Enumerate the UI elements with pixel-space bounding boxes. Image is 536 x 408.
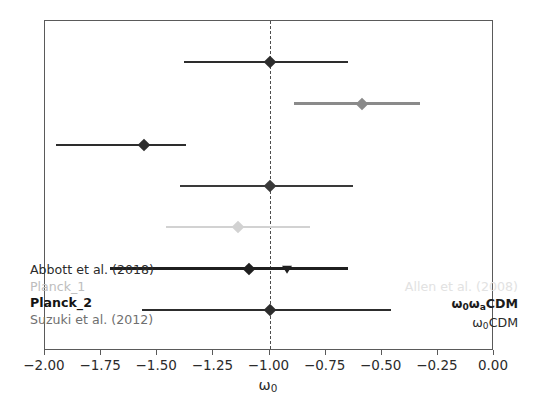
legend-dataset-item-1: Abbott et al. (2018) [30, 262, 154, 279]
x-axis-tick-label: 0.00 [478, 357, 508, 373]
legend-model-item-2: ω0ωaCDM [405, 296, 518, 315]
data-point-marker [263, 56, 276, 69]
data-point-marker [263, 303, 276, 316]
figure: −2.00−1.75−1.50−1.25−1.00−0.75−0.50−0.25… [0, 0, 536, 408]
data-point-marker [355, 97, 368, 110]
x-axis-tick [325, 350, 326, 355]
legend-datasets: Abbott et al. (2018)Planck_1Planck_2Suzu… [30, 262, 154, 328]
x-axis-tick [212, 350, 213, 355]
legend-dataset-item-3: Planck_2 [30, 295, 154, 312]
x-axis-tick [381, 350, 382, 355]
x-axis-tick-label: −0.75 [304, 357, 345, 373]
error-bar [56, 144, 186, 146]
legend-dataset-item-2: Planck_1 [30, 279, 154, 296]
x-axis-label-subscript: 0 [271, 382, 278, 394]
data-point-marker [243, 262, 256, 275]
x-axis-label: ω0 [0, 377, 536, 394]
legend-models: Allen et al. (2008)ω0ωaCDMω0CDM [405, 279, 518, 334]
data-point-marker [263, 180, 276, 193]
legend-model-item-1: Allen et al. (2008) [405, 279, 518, 296]
x-axis-tick-label: −1.75 [79, 357, 120, 373]
x-axis-tick [493, 350, 494, 355]
data-point-marker-secondary [282, 265, 292, 273]
legend-dataset-item-4: Suzuki et al. (2012) [30, 312, 154, 329]
data-point-marker [232, 221, 245, 234]
x-axis-tick-label: −0.50 [360, 357, 401, 373]
x-axis-tick [156, 350, 157, 355]
x-axis-tick [44, 350, 45, 355]
x-axis-tick-label: −0.25 [416, 357, 457, 373]
x-axis-tick [269, 350, 270, 355]
x-axis-tick-label: −1.25 [192, 357, 233, 373]
x-axis-tick [437, 350, 438, 355]
data-point-marker [137, 138, 150, 151]
x-axis-tick-label: −1.50 [136, 357, 177, 373]
legend-model-item-3: ω0CDM [405, 315, 518, 334]
x-axis-label-omega: ω [259, 377, 271, 393]
x-axis-tick-label: −1.00 [248, 357, 289, 373]
x-axis-tick [100, 350, 101, 355]
x-axis-tick-label: −2.00 [23, 357, 64, 373]
